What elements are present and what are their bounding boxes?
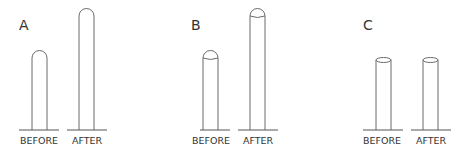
panel-a-after-label: AFTER bbox=[72, 135, 103, 146]
panel-a-before-column bbox=[32, 51, 47, 131]
panel-c: C BEFORE AFTER bbox=[363, 17, 451, 146]
panel-a-label: A bbox=[19, 17, 29, 33]
panel-c-before-label: BEFORE bbox=[363, 135, 401, 146]
panel-b-before-column bbox=[203, 51, 218, 131]
panel-c-label: C bbox=[363, 17, 373, 33]
panel-a-after-column bbox=[79, 9, 94, 131]
panel-c-after-column bbox=[423, 60, 438, 130]
panel-b-before-cap-line bbox=[203, 58, 218, 60]
panel-c-before-top-ellipse bbox=[376, 58, 391, 63]
panel-c-after-top-ellipse bbox=[423, 58, 438, 63]
panel-a: A BEFORE AFTER bbox=[19, 9, 107, 147]
panel-c-before-column bbox=[376, 60, 391, 130]
panel-a-before-label: BEFORE bbox=[20, 135, 58, 146]
panel-b-after-cap-line bbox=[250, 16, 265, 18]
panel-b: B BEFORE AFTER bbox=[191, 9, 278, 147]
panel-b-after-column bbox=[250, 9, 265, 131]
panel-b-before-label: BEFORE bbox=[192, 135, 230, 146]
diagram-canvas: A BEFORE AFTER B BEFORE AFTER C BEFORE bbox=[0, 0, 466, 154]
panel-b-label: B bbox=[191, 17, 201, 33]
panel-b-after-label: AFTER bbox=[243, 135, 274, 146]
panel-c-after-label: AFTER bbox=[416, 135, 447, 146]
